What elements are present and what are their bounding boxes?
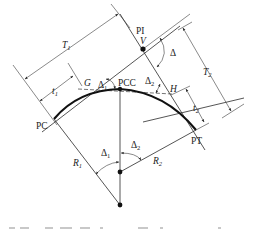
t1-extension-right xyxy=(111,4,130,28)
t2-label: T2 xyxy=(203,67,212,78)
pcc-label: PCC xyxy=(118,78,136,88)
delta2-center-arc xyxy=(121,153,141,160)
t2-small-label: t2 xyxy=(193,103,200,114)
delta2-center-label: Δ2 xyxy=(131,140,140,151)
delta1-top-label: Δ1 xyxy=(98,80,107,91)
v-label: V xyxy=(140,36,147,46)
t2-extension-bottom xyxy=(222,104,244,118)
center-o1-point xyxy=(118,203,123,208)
delta1-center-label: Δ1 xyxy=(101,148,110,159)
compound-curve-diagram: PI V PC PCC PT G H T1 t1 T2 t2 R1 R2 Δ Δ… xyxy=(0,0,257,229)
pt-label: PT xyxy=(191,136,202,146)
delta1-center-arc xyxy=(96,162,119,174)
pi-point xyxy=(140,46,145,51)
t1-small-extension xyxy=(68,63,82,86)
t2-extension-top xyxy=(178,22,192,30)
delta-label: Δ xyxy=(170,48,176,58)
compound-curve xyxy=(54,89,196,130)
t1-extension-left xyxy=(13,65,57,125)
center-o2-point xyxy=(118,170,123,175)
h-label: H xyxy=(169,84,178,94)
delta2-top-label: Δ2 xyxy=(145,76,154,87)
r1-label: R1 xyxy=(72,158,82,169)
pt-radial-extension xyxy=(196,123,209,130)
back-tangent-extension xyxy=(143,14,190,49)
t1-small-label: t1 xyxy=(52,86,58,97)
t1-label: T1 xyxy=(62,40,71,51)
t1-small-dimension-line xyxy=(40,76,73,101)
r2-label: R2 xyxy=(152,156,163,167)
pi-label: PI xyxy=(136,26,144,36)
g-label: G xyxy=(84,78,91,88)
cropped-caption-fragment xyxy=(8,226,248,229)
delta2-top-arc xyxy=(156,84,160,93)
pc-label: PC xyxy=(36,121,48,131)
radius-r1-line xyxy=(54,119,120,205)
